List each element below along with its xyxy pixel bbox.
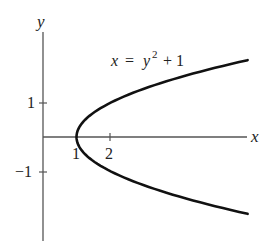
equation-label: x = y 2 + 1 <box>110 48 184 70</box>
x-tick-label-1: 1 <box>72 145 80 162</box>
x-axis-label: x <box>250 127 259 146</box>
equation-equals: = <box>125 52 134 69</box>
parabola-chart: y x 1 −1 1 2 x = y 2 + 1 <box>0 0 270 252</box>
x-tick-label-2: 2 <box>105 145 113 162</box>
equation-var: y <box>141 52 151 70</box>
y-axis-label: y <box>35 12 45 31</box>
y-tick-label-1: 1 <box>27 94 35 111</box>
equation-exponent: 2 <box>152 48 158 60</box>
equation-lhs: x <box>110 52 118 69</box>
y-tick-label-neg1: −1 <box>15 163 32 180</box>
equation-rest: + 1 <box>163 52 184 69</box>
